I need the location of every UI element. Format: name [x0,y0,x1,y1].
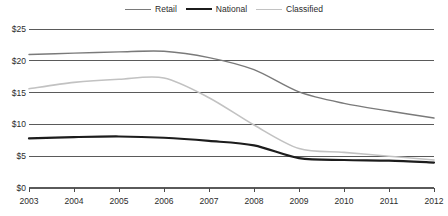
plot-area [0,18,448,194]
legend-label-retail: Retail [155,4,177,14]
x-axis-label: 2003 [20,196,39,206]
x-axis-label: 2009 [290,196,309,206]
y-axis-label: $20 [12,56,26,65]
legend-item-classified: Classified [256,4,323,14]
x-axis-label: 2004 [65,196,84,206]
x-axis-label: 2012 [425,196,444,206]
x-axis-label: 2011 [380,196,398,206]
x-axis-ticks [29,188,434,192]
x-axis-label: 2005 [110,196,129,206]
x-axis-label: 2006 [155,196,174,206]
line-chart: Retail National Classified $0$5$10$15$20… [0,0,448,216]
y-axis-labels: $0$5$10$15$20$25 [0,18,29,194]
legend-label-classified: Classified [286,4,323,14]
series-lines [29,51,434,163]
legend-item-retail: Retail [125,4,177,14]
x-axis-label: 2007 [200,196,219,206]
x-axis-label: 2010 [335,196,354,206]
line-swatch-retail-icon [125,9,151,10]
x-axis-labels: 2003200420052006200720082009201020112012 [0,196,448,210]
y-axis-label: $15 [12,88,26,97]
y-axis-label: $0 [17,184,26,193]
line-swatch-national-icon [186,8,212,10]
line-swatch-classified-icon [256,9,282,10]
legend-item-national: National [186,4,247,14]
y-axis-label: $5 [17,152,26,161]
y-axis-label: $25 [12,25,26,34]
y-axis-label: $10 [12,120,26,129]
x-axis-label: 2008 [245,196,264,206]
plot-svg [0,18,448,194]
series-line-classified [29,77,434,160]
series-line-national [29,136,434,162]
chart-legend: Retail National Classified [0,2,448,16]
legend-label-national: National [216,4,247,14]
